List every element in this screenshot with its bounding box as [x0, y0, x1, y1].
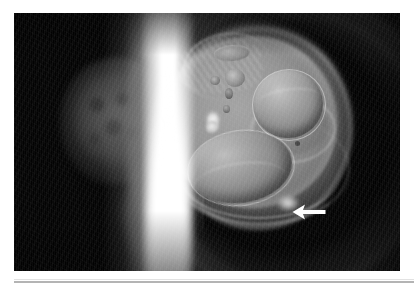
scan-image [14, 13, 400, 271]
panel-bottom-fade [14, 211, 400, 271]
secondary-ring [247, 93, 339, 168]
nodule-d [223, 105, 230, 113]
outer-abdominal-halo [124, 13, 400, 271]
upper-striated-band [173, 33, 264, 98]
gestational-sac-boundary [164, 27, 352, 229]
bottom-divider [14, 281, 414, 283]
concentric-arc-inner [156, 13, 400, 271]
secondary-ring-fill [251, 97, 330, 158]
bright-vertical-band [140, 13, 196, 271]
lower-left-ovoid-structure [183, 124, 296, 210]
right-sphere-band [256, 85, 320, 114]
lower-left-ovoid-band [192, 157, 288, 204]
left-edge-glow [102, 13, 174, 271]
right-sphere-rim [252, 69, 326, 141]
bright-echogenic-focus [203, 109, 223, 133]
upper-left-bright-streak [162, 33, 173, 41]
nodule-a [225, 69, 245, 87]
right-sphere-structure [253, 70, 323, 138]
panel-right-fade [330, 13, 400, 271]
scanline-texture [14, 13, 400, 271]
rib-arc [176, 25, 276, 108]
fetal-body-mass [166, 37, 336, 207]
figure-panel [14, 13, 400, 271]
bright-vertical-band-core [138, 13, 198, 271]
nodule-c [225, 88, 233, 99]
concentric-arc-outer [134, 13, 400, 271]
left-body-wall-arc [14, 13, 204, 271]
nodule-b [210, 76, 220, 85]
left-oval-organ-shadow [60, 57, 168, 185]
bright-echogenic-focus-tail [206, 121, 219, 133]
concentric-arc-inferior [126, 103, 400, 271]
pointer-arrow [292, 203, 326, 221]
left-organ-inner-shadow [76, 75, 154, 161]
small-dark-dot [295, 141, 300, 146]
small-ovoid-upper [213, 44, 250, 62]
gestational-sac-glow [160, 23, 352, 229]
lower-left-ovoid-rim [182, 123, 300, 213]
panel-top-fade [14, 13, 400, 55]
film-grain-texture [14, 13, 400, 271]
left-mottled-texture [82, 83, 148, 155]
fetal-body-edge-highlight [164, 35, 338, 209]
concentric-arc-middle [146, 13, 400, 271]
bottom-divider-highlight [14, 279, 414, 280]
page-root [0, 0, 414, 289]
